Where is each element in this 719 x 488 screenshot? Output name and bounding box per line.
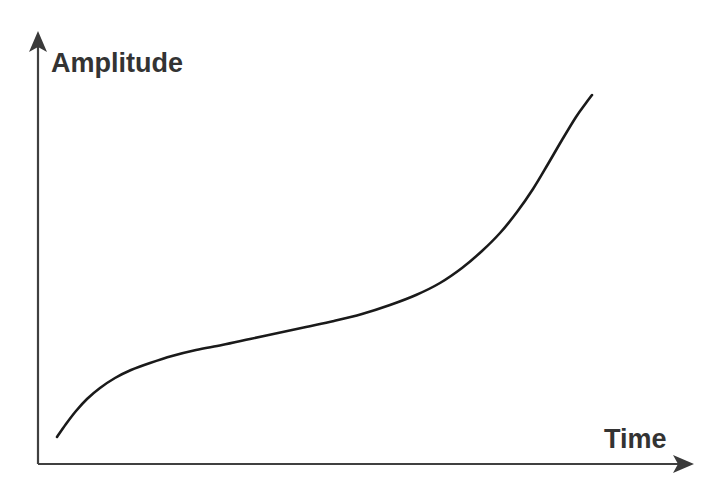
x-axis-label: Time xyxy=(604,426,667,453)
amplitude-curve xyxy=(57,95,592,437)
chart-canvas: Amplitude Time xyxy=(0,0,719,488)
y-axis-label: Amplitude xyxy=(51,50,183,77)
